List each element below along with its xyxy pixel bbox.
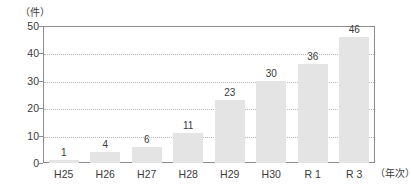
bar-value-label: 46 [334, 24, 376, 35]
x-axis-tick-label: R 3 [334, 168, 376, 180]
bar-slot: 11 [168, 26, 210, 163]
x-axis-tick-group: H25H26H27H28H29H30R 1R 3 [43, 168, 375, 184]
y-axis-tick-group: 01020304050 [0, 26, 39, 163]
bar-slot: 6 [126, 26, 168, 163]
bar-slot: 4 [85, 26, 127, 163]
bar [339, 37, 369, 163]
bar-value-label: 1 [43, 147, 85, 158]
bar [173, 133, 203, 163]
x-axis-tick-label: H29 [209, 168, 251, 180]
bar [132, 147, 162, 163]
bar-value-label: 23 [209, 87, 251, 98]
bars-layer: 1461123303646 [43, 26, 375, 163]
bar-value-label: 6 [126, 134, 168, 145]
x-axis-tick-label: H25 [43, 168, 85, 180]
bar-slot: 30 [251, 26, 293, 163]
bar-value-label: 4 [85, 139, 127, 150]
bar-value-label: 36 [292, 51, 334, 62]
bar [256, 81, 286, 163]
x-axis-tick-label: H28 [168, 168, 210, 180]
y-axis-tick-mark [39, 163, 43, 164]
y-axis-tick-label: 50 [3, 21, 39, 31]
y-axis-tick-label: 0 [3, 158, 39, 168]
bar-slot: 46 [334, 26, 376, 163]
bar-value-label: 30 [251, 68, 293, 79]
bar-chart-figure: （件） 01020304050 1461123303646 H25H26H27H… [0, 0, 411, 190]
y-axis-tick-label: 10 [3, 131, 39, 141]
x-axis-tick-label: R 1 [292, 168, 334, 180]
y-axis-unit-label: （件） [20, 7, 50, 19]
bar [298, 64, 328, 163]
bar [49, 160, 79, 163]
x-axis-tick-label: H30 [251, 168, 293, 180]
x-axis-unit-label: （年次） [375, 168, 411, 180]
y-axis-tick-label: 30 [3, 76, 39, 86]
bar [215, 100, 245, 163]
y-axis-tick-label: 40 [3, 48, 39, 58]
bar [90, 152, 120, 163]
bar-slot: 36 [292, 26, 334, 163]
bar-value-label: 11 [168, 120, 210, 131]
x-axis-tick-label: H26 [85, 168, 127, 180]
x-axis-tick-label: H27 [126, 168, 168, 180]
bar-slot: 1 [43, 26, 85, 163]
bar-slot: 23 [209, 26, 251, 163]
y-axis-tick-label: 20 [3, 103, 39, 113]
